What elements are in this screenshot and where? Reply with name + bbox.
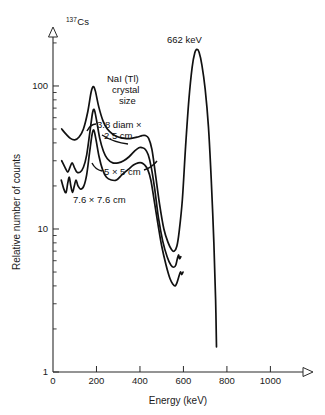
spectrum-figure: 110100 02004006008001000 Energy (keV) Re… xyxy=(0,0,325,415)
x-tick-label: 400 xyxy=(132,375,148,386)
series-label-3: 7.6 × 7.6 cm xyxy=(73,194,126,205)
x-axis-tick-labels: 02004006008001000 xyxy=(50,375,281,386)
nuclide-title: 137Cs xyxy=(66,16,89,28)
x-axis-arrow-icon xyxy=(303,368,313,377)
y-axis-arrow-icon xyxy=(49,27,58,37)
x-tick-label: 200 xyxy=(89,375,105,386)
y-tick-label: 100 xyxy=(32,80,48,91)
series-label-1-line-1: 3.8 diam × xyxy=(97,119,142,130)
x-axis-ticks xyxy=(96,366,270,372)
x-tick-label: 800 xyxy=(219,375,235,386)
y-axis-title: Relative number of counts xyxy=(11,154,22,270)
series-label-2: 5 × 5 cm xyxy=(104,166,141,177)
photopeak-label: 662 keV xyxy=(167,34,203,45)
gamma-spectrum-chart: 110100 02004006008001000 Energy (keV) Re… xyxy=(0,0,325,415)
x-tick-label: 600 xyxy=(176,375,192,386)
nuclide-symbol: Cs xyxy=(77,16,89,27)
x-tick-label: 1000 xyxy=(260,375,281,386)
crystal-note-line-2: crystal xyxy=(112,84,139,95)
series-label-1-line-2: 2.5 cm xyxy=(104,130,133,141)
y-tick-label: 1 xyxy=(43,366,48,377)
y-axis-tick-labels: 110100 xyxy=(32,80,48,377)
crystal-note-line-3: size xyxy=(119,95,136,106)
x-axis-title: Energy (keV) xyxy=(149,395,207,406)
y-tick-label: 10 xyxy=(37,223,48,234)
crystal-note-line-1: NaI (Tl) xyxy=(107,73,139,84)
nuclide-mass-number: 137 xyxy=(66,16,77,23)
spectrum-curve-3 xyxy=(61,130,183,286)
x-tick-label: 0 xyxy=(50,375,55,386)
y-axis-ticks xyxy=(53,43,59,372)
